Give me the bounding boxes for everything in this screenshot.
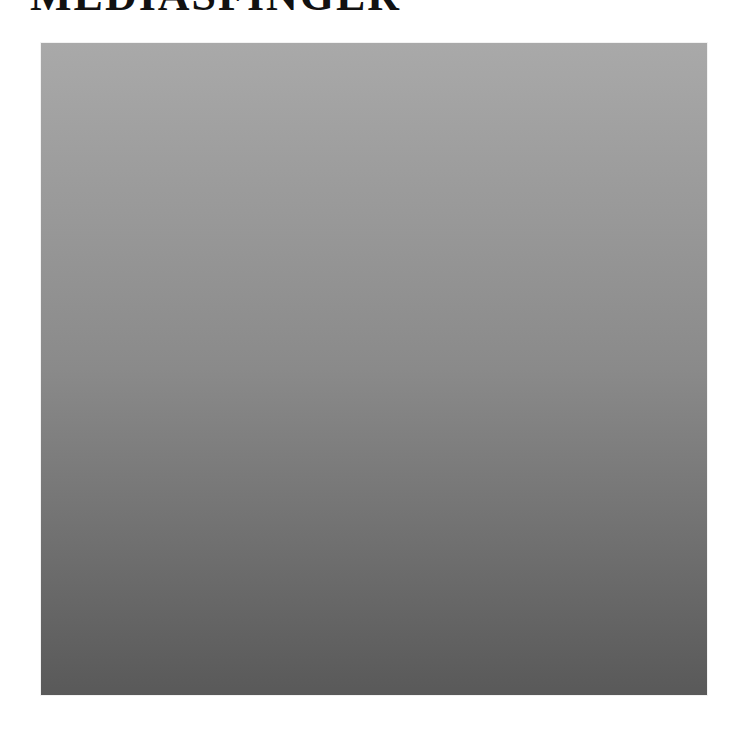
gradient-image-panel bbox=[41, 43, 707, 695]
page-title: MEDIASFINGER bbox=[30, 0, 401, 18]
